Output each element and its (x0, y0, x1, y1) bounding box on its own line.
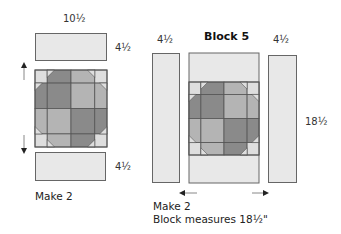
flower-block-center (189, 82, 259, 155)
flower-block-left (35, 70, 107, 147)
block-patch (189, 82, 201, 94)
arrow-left-icon (179, 190, 197, 196)
block-patch (224, 119, 247, 143)
arrow-up-icon (21, 62, 27, 80)
bottom-strip (35, 152, 106, 181)
block-patch (71, 109, 95, 134)
block-patch (47, 83, 71, 108)
block-patch (201, 119, 224, 143)
block-patch (247, 82, 259, 94)
block-patch (201, 94, 224, 118)
block-patch (189, 143, 201, 155)
right-side-strip (268, 55, 297, 183)
left-side-strip (152, 53, 180, 183)
block-patch (35, 134, 47, 147)
block-patch (95, 134, 107, 147)
block-patch (47, 109, 71, 134)
right-side-strip-width-label: 4½ (273, 34, 289, 45)
block-patch (71, 83, 95, 108)
arrow-down-icon (21, 135, 27, 154)
block-title: Block 5 (204, 30, 249, 43)
block-patch (247, 143, 259, 155)
left-unit-note: Make 2 (35, 190, 73, 203)
left-side-strip-width-label: 4½ (157, 34, 173, 45)
block-patch (224, 94, 247, 118)
right-unit-note-measures: Block measures 18½" (153, 213, 268, 226)
block-height-label: 18½ (305, 116, 327, 127)
block-patch (95, 70, 107, 83)
right-unit-note-make: Make 2 (153, 200, 191, 213)
block-patch (35, 70, 47, 83)
arrow-right-icon (252, 190, 269, 196)
bottom-strip-height-label: 4½ (115, 161, 131, 172)
